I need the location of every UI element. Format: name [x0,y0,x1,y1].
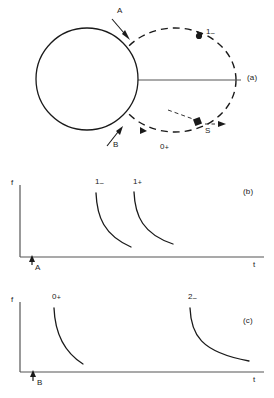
spot-velocity-arrowhead [218,121,226,127]
figure-container: A B 1– 0+ S (a) f t A 1– [0,0,274,398]
panel-a-diagram: A B 1– 0+ S (a) [0,0,274,165]
spot-tangent-dashes [168,110,193,119]
marker-one-minus [196,33,202,39]
panel-b-label-one-plus-sign: + [138,179,142,186]
panel-c-label-zero-plus: 0+ [52,293,61,301]
panel-b-label-one-plus: 1+ [133,178,142,186]
panel-c-x-axis-label: t [253,376,255,384]
panel-c-curve-two-minus [190,308,249,361]
label-one-minus: 1– [206,28,215,36]
panel-b-curve-one-minus [96,193,131,247]
panel-c-tag: (c) [243,317,253,325]
label-one-minus-sign: – [211,29,215,36]
panel-c-y-axis-label: f [11,296,13,304]
panel-c-label-zero-plus-sign: + [57,294,61,301]
panel-b-x-axis-label: t [253,261,255,269]
stream-direction-arrow-bottom [140,127,147,134]
label-zero-plus-sign: + [165,144,169,151]
panel-c-curve-zero-plus [54,308,83,364]
panel-c-chart: f t B 0+ 2– (c) [0,280,274,398]
panel-b-origin-arrowhead [29,255,35,262]
panel-a-graphic [0,0,274,165]
label-point-b: B [113,141,119,149]
panel-b-origin-label: A [35,264,41,272]
panel-a-tag: (a) [247,74,257,82]
label-spot-s: S [205,127,211,135]
panel-c-origin-label: B [37,379,43,387]
panel-b-label-one-minus-sign: – [100,179,104,186]
panel-b-chart: f t A 1– 1+ (b) [0,165,274,280]
label-zero-plus: 0+ [160,143,169,151]
panel-c-label-two-minus: 2– [188,293,197,301]
panel-c-label-two-minus-sign: – [193,294,197,301]
panel-b-curve-one-plus [134,192,173,244]
label-point-a: A [117,7,123,15]
point-a-leader [112,19,124,33]
marker-spot-s [193,117,202,126]
panel-b-label-one-minus: 1– [95,178,104,186]
panel-b-y-axis-label: f [11,179,13,187]
star-circle [36,28,138,130]
panel-c-origin-arrowhead [30,370,36,377]
panel-b-tag: (b) [243,188,253,196]
